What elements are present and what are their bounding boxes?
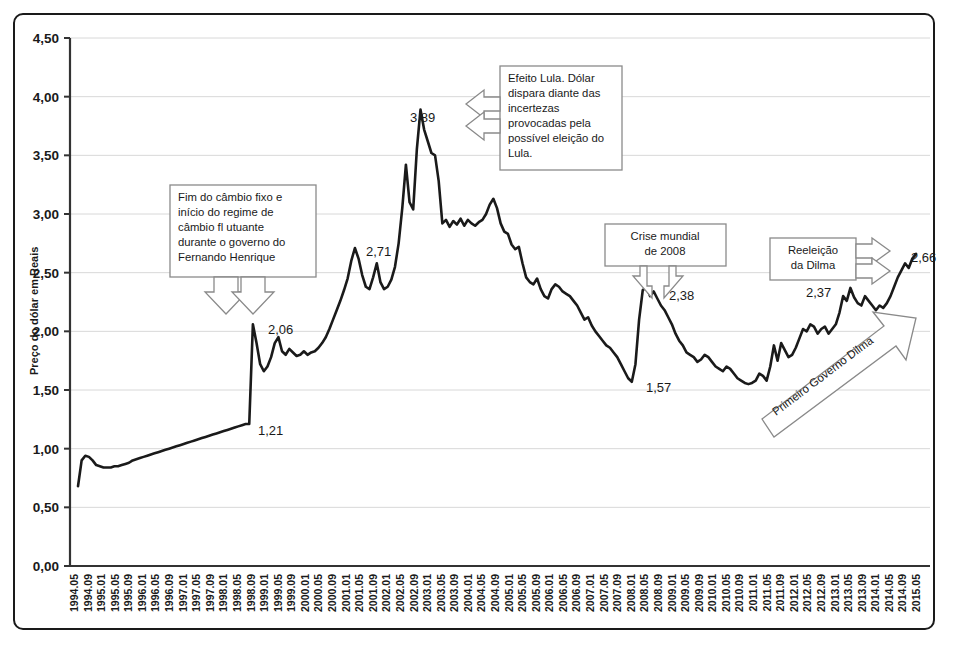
x-axis-tick-label: 2007.09 bbox=[611, 574, 623, 612]
x-axis-tick-label: 2005.05 bbox=[516, 574, 528, 612]
x-axis-tick-label: 2008.01 bbox=[625, 574, 637, 612]
x-axis-tick-label: 1998.05 bbox=[231, 574, 243, 612]
x-axis-tick-label: 2013.01 bbox=[829, 574, 841, 612]
x-axis-tick-label: 2004.01 bbox=[462, 574, 474, 612]
x-axis-tick-label: 2000.05 bbox=[312, 574, 324, 612]
x-axis-tick-label: 2012.09 bbox=[815, 574, 827, 612]
x-axis-tick-label: 1996.05 bbox=[149, 574, 161, 612]
annotation-fim-cambio-fixo: Fim do câmbio fixo e início do regime de… bbox=[170, 185, 316, 314]
y-axis-tick-label: 3,00 bbox=[33, 207, 59, 222]
x-axis-tick-label: 2012.01 bbox=[788, 574, 800, 612]
annotation-line: Efeito Lula. Dólar bbox=[508, 72, 595, 84]
x-axis-tick-label: 2000.01 bbox=[299, 574, 311, 612]
x-axis-tick-label: 2014.09 bbox=[896, 574, 908, 612]
data-point-label: 3,89 bbox=[410, 110, 435, 125]
x-axis-tick-label: 1995.01 bbox=[95, 574, 107, 612]
annotation-line: Crise mundial bbox=[630, 230, 699, 242]
x-axis-tick-label: 2003.09 bbox=[448, 574, 460, 612]
data-point-label: 1,57 bbox=[646, 380, 671, 395]
x-axis-tick-label: 2003.01 bbox=[421, 574, 433, 612]
arrow-right-icon bbox=[856, 258, 890, 284]
x-axis-tick-label: 2013.09 bbox=[856, 574, 868, 612]
x-axis-tick-label: 1999.05 bbox=[272, 574, 284, 612]
x-axis-tick-label: 1998.09 bbox=[245, 574, 257, 612]
annotation-line: câmbio fl utuante bbox=[178, 221, 264, 233]
x-axis-tick-label: 1999.09 bbox=[285, 574, 297, 612]
annotation-line: dispara diante das bbox=[508, 87, 601, 99]
x-axis-tick-label: 1998.01 bbox=[217, 574, 229, 612]
x-axis-tick-label: 2004.09 bbox=[489, 574, 501, 612]
x-axis-tick-label: 1997.01 bbox=[177, 574, 189, 612]
x-axis-tick-label: 1997.05 bbox=[190, 574, 202, 612]
y-axis-tick-label: 4,50 bbox=[33, 31, 59, 46]
annotation-line: Fim do câmbio fixo e bbox=[178, 191, 282, 203]
chart-page: 0,000,501,001,502,002,503,003,504,004,50… bbox=[0, 0, 962, 657]
annotation-crise-mundial: Crise mundial de 2008 bbox=[605, 224, 726, 298]
annotation-primeiro-governo-dilma: Primeiro Governo Dilma bbox=[762, 312, 916, 437]
y-axis-tick-label: 1,00 bbox=[33, 442, 59, 457]
x-axis-tick-label: 2002.09 bbox=[408, 574, 420, 612]
x-axis-tick-label: 2007.01 bbox=[584, 574, 596, 612]
data-point-label: 2,37 bbox=[806, 285, 831, 300]
annotation-line: durante o governo do bbox=[178, 236, 285, 248]
arrow-diagonal-up-right-icon bbox=[762, 312, 916, 437]
annotation-line: incertezas bbox=[508, 102, 560, 114]
annotation-line: Fernando Henrique bbox=[178, 251, 275, 263]
y-axis-title: Preço do dólar em Reais bbox=[28, 247, 40, 375]
annotation-line: possível eleição do bbox=[508, 132, 604, 144]
x-axis-tick-label: 2004.05 bbox=[475, 574, 487, 612]
x-axis-tick-label: 2008.05 bbox=[638, 574, 650, 612]
x-axis-tick-label: 2010.01 bbox=[706, 574, 718, 612]
x-axis-tick-label: 2006.09 bbox=[570, 574, 582, 612]
x-axis-tick-label: 2008.09 bbox=[652, 574, 664, 612]
data-line-series bbox=[78, 110, 916, 487]
x-axis-tick-label: 2002.05 bbox=[394, 574, 406, 612]
annotation-line: de 2008 bbox=[645, 245, 686, 257]
chart-svg: 0,000,501,001,502,002,503,003,504,004,50… bbox=[0, 0, 962, 657]
x-axis-tick-label: 2011.05 bbox=[761, 574, 773, 612]
data-point-label: 2,38 bbox=[669, 288, 694, 303]
x-axis-tick-label: 1994.09 bbox=[82, 574, 94, 612]
annotation-reeleicao-dilma: Reeleição da Dilma bbox=[770, 238, 890, 284]
x-axis-tick-label: 2015.05 bbox=[910, 574, 922, 612]
data-point-label: 1,21 bbox=[258, 423, 283, 438]
x-axis-tick-label: 1996.01 bbox=[136, 574, 148, 612]
data-point-label: 2,71 bbox=[366, 244, 391, 259]
annotation-line: Reeleição bbox=[788, 244, 838, 256]
annotation-line: Primeiro Governo Dilma bbox=[770, 334, 876, 418]
x-axis-tick-label: 2006.05 bbox=[557, 574, 569, 612]
x-axis-tick-label: 2014.01 bbox=[869, 574, 881, 612]
x-axis-tick-label: 1996.09 bbox=[163, 574, 175, 612]
x-axis-tick-label: 2000.09 bbox=[326, 574, 338, 612]
x-axis-tick-label: 2011.09 bbox=[774, 574, 786, 612]
x-axis-tick-label: 2003.05 bbox=[435, 574, 447, 612]
y-axis-tick-label: 3,50 bbox=[33, 148, 59, 163]
x-axis-tick-label: 2001.09 bbox=[367, 574, 379, 612]
x-axis-tick-label: 2013.05 bbox=[842, 574, 854, 612]
data-point-label: 2,66 bbox=[911, 250, 936, 265]
x-axis-tick-label: 1995.09 bbox=[122, 574, 134, 612]
x-axis-tick-label: 2006.01 bbox=[543, 574, 555, 612]
x-axis-tick-label: 2005.01 bbox=[503, 574, 515, 612]
x-axis-tick-label: 1997.09 bbox=[204, 574, 216, 612]
y-axis-tick-label: 0,00 bbox=[33, 559, 59, 574]
x-axis-ticks: 1994.051994.091995.011995.051995.091996.… bbox=[68, 574, 922, 612]
x-axis-tick-label: 2001.01 bbox=[340, 574, 352, 612]
x-axis-tick-label: 2009.01 bbox=[666, 574, 678, 612]
x-axis-tick-label: 2014.05 bbox=[883, 574, 895, 612]
x-axis-tick-label: 1995.05 bbox=[109, 574, 121, 612]
arrow-left-icon bbox=[466, 112, 500, 140]
x-axis-tick-label: 2009.09 bbox=[693, 574, 705, 612]
x-axis-tick-label: 2001.05 bbox=[353, 574, 365, 612]
annotation-line: Lula. bbox=[508, 147, 533, 159]
annotation-line: da Dilma bbox=[791, 259, 836, 271]
x-axis-tick-label: 1994.05 bbox=[68, 574, 80, 612]
x-axis-tick-label: 2010.05 bbox=[720, 574, 732, 612]
x-axis-tick-label: 2005.09 bbox=[530, 574, 542, 612]
x-axis-tick-label: 2012.05 bbox=[801, 574, 813, 612]
y-axis-tick-label: 1,50 bbox=[33, 383, 59, 398]
y-axis-tick-label: 0,50 bbox=[33, 500, 59, 515]
data-point-label: 2,06 bbox=[268, 322, 293, 337]
x-axis-tick-label: 2002.01 bbox=[380, 574, 392, 612]
x-axis-tick-label: 2010.09 bbox=[733, 574, 745, 612]
